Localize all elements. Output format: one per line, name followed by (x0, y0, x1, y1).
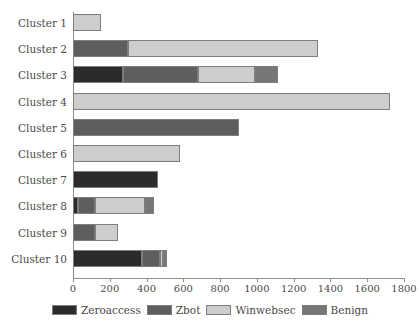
bar-segment-benign (145, 197, 154, 214)
x-axis-tick (110, 278, 111, 282)
legend-swatch-benign (302, 305, 327, 315)
legend-item-zbot[interactable]: Zbot (147, 304, 201, 316)
legend-item-winwebsec[interactable]: Winwebsec (206, 304, 295, 316)
x-axis-tick (330, 278, 331, 282)
x-axis-tick-label: 200 (100, 283, 119, 294)
legend-swatch-zeroaccess (52, 305, 77, 315)
x-axis-tick-label: 1200 (281, 283, 306, 294)
bar-segment-winwebsec (73, 14, 101, 31)
x-axis-tick (220, 278, 221, 282)
legend-item-benign[interactable]: Benign (302, 304, 369, 316)
legend-label-zeroaccess: Zeroaccess (81, 304, 141, 316)
x-axis-tick (257, 278, 258, 282)
x-axis-tick-label: 1400 (318, 283, 343, 294)
bar-row (0, 14, 420, 31)
x-axis-tick (147, 278, 148, 282)
legend-swatch-zbot (147, 305, 172, 315)
x-axis-tick-label: 400 (137, 283, 156, 294)
bar-segment-benign (163, 250, 167, 267)
bar-segment-winwebsec (128, 40, 318, 57)
chart-legend: ZeroaccessZbotWinwebsecBenign (0, 300, 420, 320)
bar-row (0, 250, 420, 267)
bar-row (0, 197, 420, 214)
x-axis-tick-label: 0 (70, 283, 76, 294)
x-axis-tick-label: 1800 (391, 283, 416, 294)
bar-segment-winwebsec (95, 224, 118, 241)
x-axis-tick (183, 278, 184, 282)
bar-row (0, 93, 420, 110)
bar-segment-winwebsec (73, 93, 390, 110)
x-axis-tick (367, 278, 368, 282)
bar-segment-benign (255, 66, 278, 83)
x-axis-tick-label: 600 (174, 283, 193, 294)
x-axis-tick-label: 800 (211, 283, 230, 294)
bar-segment-zeroaccess (73, 171, 158, 188)
bar-row (0, 119, 420, 136)
bar-row (0, 66, 420, 83)
bar-row (0, 171, 420, 188)
bar-segment-zbot (142, 250, 160, 267)
stacked-bar-chart: Cluster 1Cluster 2Cluster 3Cluster 4Clus… (0, 0, 420, 328)
x-axis-tick-label: 1000 (244, 283, 269, 294)
bar-segment-winwebsec (95, 197, 145, 214)
legend-label-benign: Benign (331, 304, 369, 316)
bar-segment-winwebsec (73, 145, 180, 162)
x-axis-tick (294, 278, 295, 282)
bar-segment-zeroaccess (73, 66, 123, 83)
bar-row (0, 40, 420, 57)
bar-segment-zeroaccess (73, 250, 142, 267)
legend-swatch-winwebsec (206, 305, 231, 315)
bar-segment-zbot (73, 40, 128, 57)
bar-segment-zbot (78, 197, 95, 214)
x-axis-line (73, 278, 404, 279)
legend-item-zeroaccess[interactable]: Zeroaccess (52, 304, 141, 316)
bar-segment-zbot (73, 119, 239, 136)
x-axis-tick (73, 278, 74, 282)
legend-label-zbot: Zbot (176, 304, 201, 316)
bar-segment-zbot (123, 66, 198, 83)
bar-row (0, 224, 420, 241)
bar-segment-zbot (73, 224, 95, 241)
bar-segment-winwebsec (198, 66, 255, 83)
x-axis-tick-label: 1600 (354, 283, 379, 294)
bar-row (0, 145, 420, 162)
legend-label-winwebsec: Winwebsec (235, 304, 295, 316)
x-axis-tick (404, 278, 405, 282)
